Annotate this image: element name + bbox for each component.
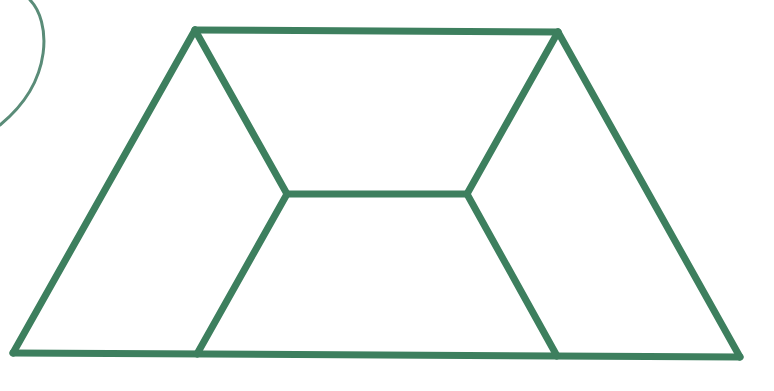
edge-inner-bottom-left xyxy=(197,194,287,354)
edge-inner-top-left xyxy=(195,30,287,194)
edge-top xyxy=(195,30,558,32)
diagram-canvas xyxy=(0,0,774,391)
edge-right-side xyxy=(558,32,740,357)
edge-inner-bottom-right xyxy=(467,194,557,356)
edge-inner-top-right xyxy=(467,32,558,194)
arc-curve xyxy=(0,0,44,125)
trapezoid-edges xyxy=(13,30,740,357)
edge-bottom xyxy=(13,353,740,357)
edge-left-side xyxy=(13,30,195,353)
partial-circle-arc xyxy=(0,0,44,125)
